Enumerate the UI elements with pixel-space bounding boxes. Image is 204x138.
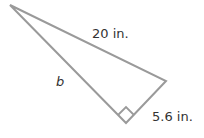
triangle-shape bbox=[10, 5, 166, 123]
right-angle-marker bbox=[118, 107, 134, 115]
triangle-svg: 20 in. b 5.6 in. bbox=[0, 0, 204, 138]
hypotenuse-label: 20 in. bbox=[92, 26, 129, 41]
short-leg-label: 5.6 in. bbox=[152, 109, 193, 124]
leg-b-label: b bbox=[56, 74, 64, 89]
triangle-diagram: 20 in. b 5.6 in. bbox=[0, 0, 204, 138]
